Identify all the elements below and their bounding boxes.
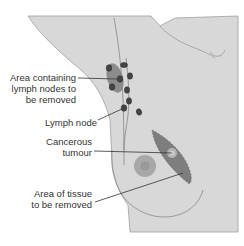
lymph-node-label: Lymph node [45,117,97,128]
lymph-area-label: Area containing lymph nodes to be remove… [10,72,76,105]
tissue-area-label: Area of tissue to be removed [31,188,92,210]
tumour-label: Cancerous tumour [46,136,92,158]
